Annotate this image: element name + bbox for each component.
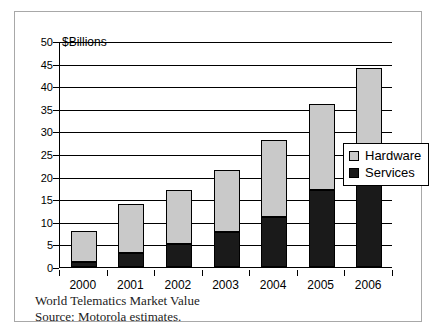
caption-title: World Telematics Market Value [35,293,200,309]
x-tick-label: 2004 [260,278,287,292]
y-axis-tick-labels: 05101520253035404550 [15,42,53,268]
legend-label-hardware: Hardware [365,149,421,162]
y-tick-label: 10 [41,217,53,229]
bar-group [261,41,287,267]
caption-source: Source: Motorola estimates. [35,309,200,325]
bar-group [214,41,240,267]
x-tick-label: 2001 [117,278,144,292]
figure-caption: World Telematics Market Value Source: Mo… [35,293,200,326]
bar-segment-services [71,262,97,267]
x-tick-mark [297,270,298,276]
x-tick-label: 2005 [307,278,334,292]
x-tick-label: 2002 [165,278,192,292]
y-tick-mark [53,268,59,269]
bar-segment-services [166,244,192,267]
bar-segment-services [118,253,144,267]
x-tick-mark [392,270,393,276]
hardware-swatch-icon [349,151,359,161]
bar-segment-hardware [261,140,287,217]
bar-group [71,41,97,267]
x-tick-mark [154,270,155,276]
chart-legend: Hardware Services [343,143,429,186]
x-tick-label: 2000 [69,278,96,292]
bar-segment-services [309,190,335,267]
services-swatch-icon [349,168,359,178]
x-axis-tick-labels: 2000200120022003200420052006 [59,270,392,292]
bar-group [166,41,192,267]
y-tick-label: 50 [41,36,53,48]
y-tick-label: 30 [41,126,53,138]
bar-group [118,41,144,267]
legend-label-services: Services [365,166,415,179]
chart-area: $Billions 05101520253035404550 200020012… [15,12,423,323]
bar-segment-hardware [118,204,144,254]
x-tick-label: 2003 [212,278,239,292]
bar-group [309,41,335,267]
y-tick-label: 15 [41,194,53,206]
x-tick-mark [202,270,203,276]
bar-segment-hardware [214,170,240,232]
y-tick-label: 35 [41,104,53,116]
y-tick-label: 40 [41,81,53,93]
figure-frame: $Billions 05101520253035404550 200020012… [14,11,422,322]
bar-segment-hardware [71,231,97,263]
y-tick-label: 25 [41,149,53,161]
legend-item-services: Services [349,164,421,181]
x-tick-mark [249,270,250,276]
bar-segment-services [261,217,287,267]
bar-segment-hardware [166,190,192,244]
x-tick-label: 2006 [355,278,382,292]
x-tick-mark [344,270,345,276]
bar-segment-services [214,232,240,267]
legend-item-hardware: Hardware [349,147,421,164]
x-tick-mark [107,270,108,276]
x-tick-mark [59,270,60,276]
y-tick-label: 20 [41,172,53,184]
y-tick-label: 45 [41,59,53,71]
bar-segment-hardware [309,104,335,190]
